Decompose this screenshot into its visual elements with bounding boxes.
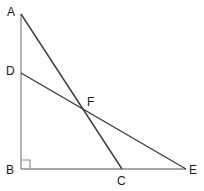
geometry-figure: A B C D E F [0, 0, 204, 191]
vertex-label-e: E [189, 164, 197, 176]
segment-de [21, 73, 186, 169]
right-angle-marker [22, 160, 30, 168]
vertex-label-a: A [7, 6, 15, 18]
geometry-canvas [0, 0, 204, 191]
segment-ac [21, 14, 122, 169]
vertex-label-c: C [117, 175, 126, 187]
vertex-label-f: F [87, 96, 94, 108]
vertex-label-b: B [6, 164, 14, 176]
vertex-label-d: D [6, 65, 15, 77]
